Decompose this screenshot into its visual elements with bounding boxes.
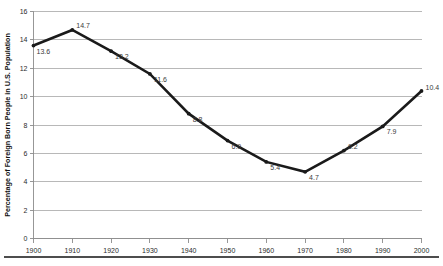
data-point-label: 5.4 — [270, 164, 280, 171]
data-point-marker — [381, 125, 385, 129]
x-tick-label: 1980 — [336, 247, 352, 254]
x-tick-label: 1990 — [375, 247, 391, 254]
data-point-label: 11.6 — [154, 76, 167, 83]
data-point-label: 6.2 — [348, 143, 358, 150]
y-tick-label: 6 — [24, 150, 28, 157]
data-point-label: 7.9 — [387, 128, 397, 135]
y-tick-label: 8 — [24, 122, 28, 129]
data-point-label: 10.4 — [426, 84, 440, 91]
data-point-marker — [70, 28, 74, 32]
y-tick-label: 14 — [20, 36, 28, 43]
x-tick-label: 1910 — [65, 247, 81, 254]
data-point-label: 13.6 — [37, 48, 51, 55]
chart-container: 0246810121416 19001910192019301940195019… — [0, 0, 443, 266]
x-tick-label: 1900 — [26, 247, 42, 254]
data-point-marker — [148, 72, 152, 76]
y-tick-label: 16 — [20, 8, 28, 15]
data-point-label: 4.7 — [309, 174, 319, 181]
x-tick-label: 1920 — [103, 247, 119, 254]
data-point-marker — [303, 170, 307, 174]
data-point-label: 14.7 — [76, 22, 90, 29]
y-tick-label: 10 — [20, 93, 28, 100]
data-point-marker — [420, 89, 424, 93]
x-tick-label: 1960 — [259, 247, 275, 254]
data-point-label: 6.9 — [232, 143, 242, 150]
data-point-label: 8.8 — [193, 116, 203, 123]
data-point-marker — [187, 112, 191, 116]
data-point-marker — [342, 149, 346, 153]
line-chart: 0246810121416 19001910192019301940195019… — [0, 0, 443, 266]
data-point-marker — [264, 160, 268, 164]
y-tick-label: 2 — [24, 207, 28, 214]
data-point-marker — [32, 44, 36, 48]
data-point-label: 13.2 — [115, 53, 129, 60]
y-tick-label: 12 — [20, 65, 28, 72]
x-tick-label: 1930 — [142, 247, 158, 254]
data-point-marker — [226, 139, 230, 143]
data-point-marker — [109, 49, 113, 53]
x-tick-label: 2000 — [414, 247, 430, 254]
y-tick-label: 0 — [24, 235, 28, 242]
x-tick-label: 1950 — [220, 247, 236, 254]
x-tick-label: 1970 — [297, 247, 313, 254]
y-axis-title: Percentage of Foreign Born People in U.S… — [3, 33, 12, 217]
x-tick-label: 1940 — [181, 247, 197, 254]
y-tick-label: 4 — [24, 178, 28, 185]
